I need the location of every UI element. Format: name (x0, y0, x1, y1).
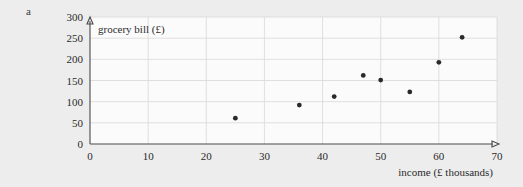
y-axis-tick-label: 200 (67, 53, 84, 65)
data-point (460, 35, 465, 40)
y-axis-tick-labels: 050100150200250300 (67, 11, 84, 150)
x-axis-tick-label: 40 (317, 150, 329, 162)
y-axis-tick-label: 50 (72, 117, 84, 129)
x-axis-tick-labels: 010203040506070 (87, 150, 503, 162)
scatter-plot-figure: a 050100150200250300 010203040506070 gro… (0, 0, 523, 187)
x-axis-tick-label: 60 (433, 150, 445, 162)
y-axis-tick-label: 250 (67, 32, 84, 44)
x-axis-tick-label: 10 (143, 150, 155, 162)
x-axis-tick-label: 70 (492, 150, 504, 162)
x-axis-tick-label: 30 (259, 150, 271, 162)
data-point (378, 78, 383, 83)
data-point (407, 90, 412, 95)
y-axis-tick-label: 0 (78, 138, 84, 150)
data-point (297, 103, 302, 108)
x-axis-tick-label: 0 (87, 150, 93, 162)
data-point (233, 116, 238, 121)
data-point (436, 60, 441, 65)
x-axis-title: income (£ thousands) (398, 166, 493, 179)
grocery-bill-vs-income-scatter-chart: 050100150200250300 010203040506070 groce… (0, 0, 523, 187)
data-point (332, 94, 337, 99)
x-axis-tick-label: 20 (201, 150, 213, 162)
y-axis-tick-label: 300 (67, 11, 84, 23)
y-axis-title: grocery bill (£) (98, 23, 165, 36)
y-axis-tick-label: 100 (67, 96, 84, 108)
x-axis-tick-label: 50 (375, 150, 387, 162)
data-point (361, 73, 366, 78)
y-axis-tick-label: 150 (67, 75, 84, 87)
